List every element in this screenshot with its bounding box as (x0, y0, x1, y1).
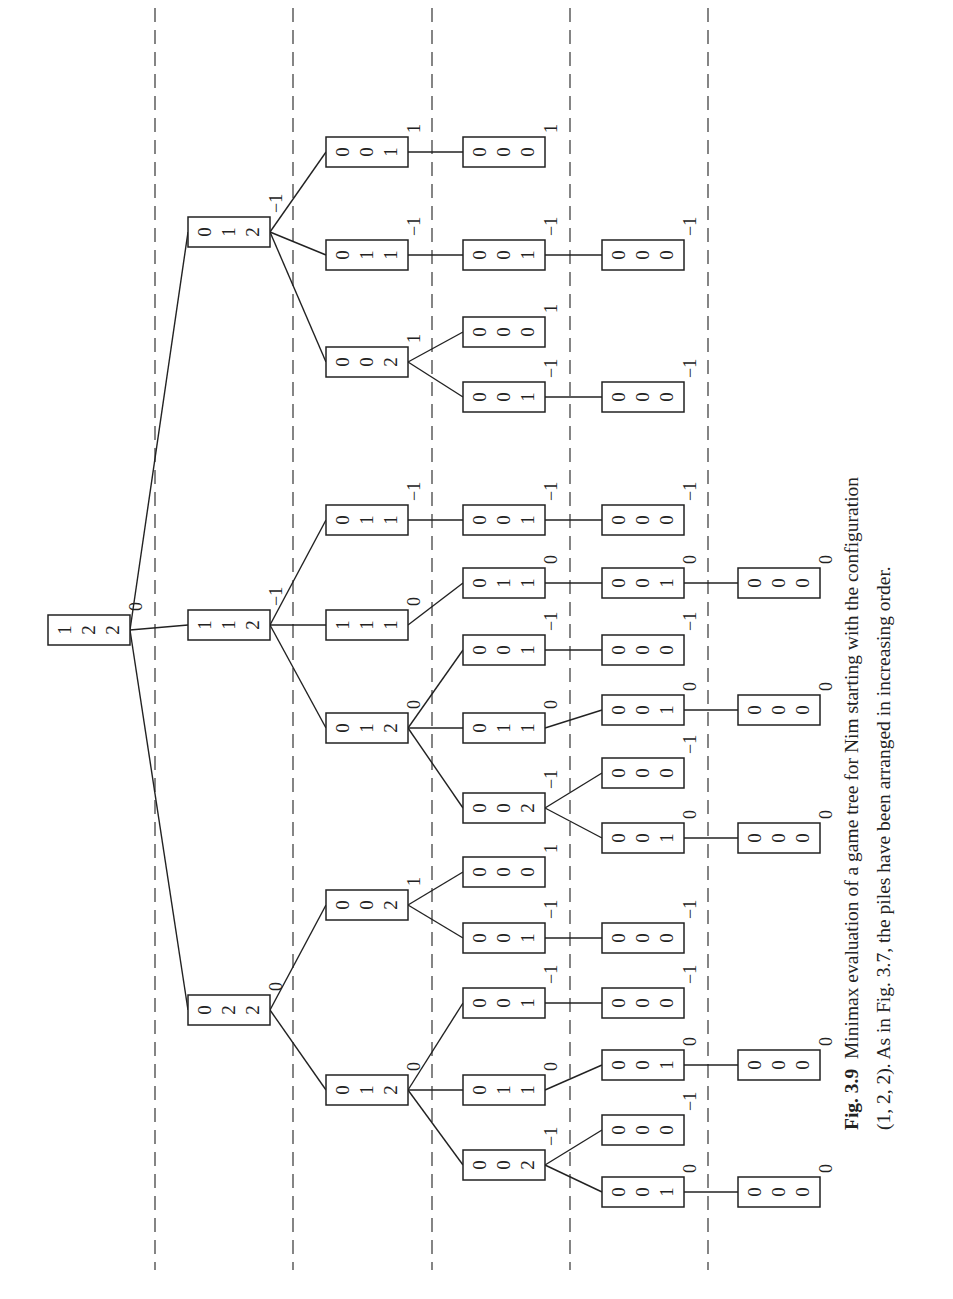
tree-edge (130, 630, 188, 1010)
pile-count: 1 (332, 620, 353, 630)
pile-count: 0 (608, 768, 629, 778)
pile-count: 0 (632, 250, 653, 260)
pile-count: 0 (517, 867, 538, 877)
pile-count: 1 (517, 515, 538, 525)
pile-count: 0 (768, 578, 789, 588)
tree-node: 0010 (602, 1037, 700, 1080)
pile-count: 0 (469, 723, 490, 733)
minimax-value: −1 (680, 735, 700, 754)
tree-edge (408, 650, 463, 728)
pile-count: 0 (608, 515, 629, 525)
pile-count: 0 (744, 1060, 765, 1070)
pile-count: 2 (78, 625, 99, 635)
minimax-value: −1 (266, 194, 286, 213)
tree-node: 0010 (602, 810, 700, 853)
tree-edge (270, 905, 326, 1010)
pile-count: 2 (242, 1005, 263, 1015)
pile-count: 0 (792, 1060, 813, 1070)
minimax-value: −1 (541, 900, 561, 919)
tree-edge (130, 232, 188, 630)
pile-count: 1 (356, 250, 377, 260)
pile-count: 2 (380, 357, 401, 367)
tree-node: 0001 (463, 124, 561, 167)
tree-node: 001−1 (463, 359, 561, 412)
pile-count: 0 (493, 803, 514, 813)
pile-count: 0 (656, 645, 677, 655)
pile-count: 1 (517, 998, 538, 1008)
pile-count: 1 (380, 620, 401, 630)
tree-nodes: 1220012−1112−102200011011−10021011−11110… (48, 124, 836, 1207)
minimax-value: 1 (404, 334, 424, 343)
pile-count: 0 (517, 147, 538, 157)
pile-count: 0 (194, 1005, 215, 1015)
pile-count: 0 (792, 578, 813, 588)
pile-count: 0 (469, 1160, 490, 1170)
pile-count: 0 (356, 357, 377, 367)
pile-count: 0 (608, 933, 629, 943)
minimax-value: 0 (404, 1062, 424, 1071)
tree-node: 001−1 (463, 482, 561, 535)
minimax-value: −1 (541, 965, 561, 984)
minimax-value: 0 (680, 1164, 700, 1173)
pile-count: 0 (768, 1060, 789, 1070)
pile-count: 1 (493, 578, 514, 588)
pile-count: 0 (608, 998, 629, 1008)
minimax-value: 0 (680, 555, 700, 564)
tree-edge (270, 1010, 326, 1090)
pile-count: 0 (332, 515, 353, 525)
pile-count: 2 (517, 1160, 538, 1170)
minimax-value: 0 (816, 555, 836, 564)
minimax-value: 0 (816, 1164, 836, 1173)
pile-count: 1 (194, 620, 215, 630)
pile-count: 0 (608, 1125, 629, 1135)
tree-node: 0110 (463, 555, 561, 598)
tree-edge (408, 872, 463, 905)
pile-count: 1 (218, 620, 239, 630)
pile-count: 2 (242, 620, 263, 630)
pile-count: 1 (656, 1060, 677, 1070)
minimax-value: 0 (680, 1037, 700, 1046)
pile-count: 0 (744, 705, 765, 715)
minimax-value: 0 (816, 810, 836, 819)
pile-count: 0 (792, 705, 813, 715)
tree-node: 0001 (463, 844, 561, 887)
caption-line-1: Fig. 3.9 Minimax evaluation of a game tr… (836, 260, 868, 1130)
figure-caption: Fig. 3.9 Minimax evaluation of a game tr… (836, 260, 916, 1130)
pile-count: 0 (493, 250, 514, 260)
tree-node: 001−1 (463, 612, 561, 665)
pile-count: 0 (493, 645, 514, 655)
pile-count: 0 (356, 147, 377, 157)
pile-count: 0 (744, 833, 765, 843)
pile-count: 0 (656, 250, 677, 260)
tree-edge (408, 1003, 463, 1090)
pile-count: 0 (493, 933, 514, 943)
tree-node: 001−1 (463, 217, 561, 270)
tree-node: 0120 (326, 1062, 424, 1105)
pile-count: 0 (469, 578, 490, 588)
minimax-value: 0 (816, 682, 836, 691)
pile-count: 0 (656, 998, 677, 1008)
pile-count: 2 (380, 900, 401, 910)
pile-count: 1 (656, 833, 677, 843)
minimax-value: −1 (680, 900, 700, 919)
tree-node: 002−1 (463, 1127, 561, 1180)
pile-count: 0 (744, 578, 765, 588)
pile-count: 0 (493, 392, 514, 402)
minimax-value: −1 (404, 217, 424, 236)
tree-node: 000−1 (602, 735, 700, 788)
pile-count: 0 (356, 900, 377, 910)
pile-count: 2 (380, 723, 401, 733)
caption-label: Fig. 3.9 (841, 1069, 862, 1130)
pile-count: 0 (469, 933, 490, 943)
tree-edge (408, 1090, 463, 1165)
pile-count: 0 (632, 578, 653, 588)
tree-node: 000−1 (602, 965, 700, 1018)
pile-count: 0 (744, 1187, 765, 1197)
pile-count: 0 (632, 933, 653, 943)
pile-count: 0 (332, 900, 353, 910)
tree-node: 011−1 (326, 482, 424, 535)
pile-count: 1 (517, 250, 538, 260)
pile-count: 0 (608, 645, 629, 655)
pile-count: 0 (792, 833, 813, 843)
minimax-value: 0 (541, 1062, 561, 1071)
